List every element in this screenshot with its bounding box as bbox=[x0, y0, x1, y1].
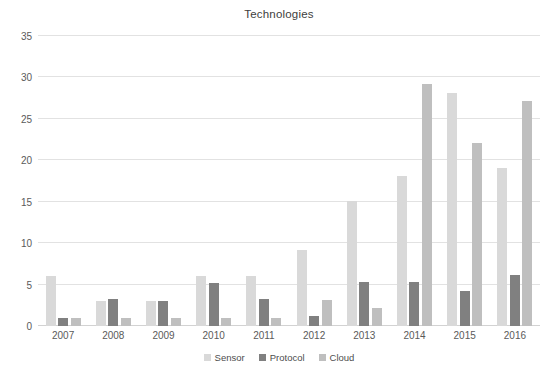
y-tick-label-10: 10 bbox=[0, 238, 32, 249]
x-tick-label-2014: 2014 bbox=[403, 330, 425, 341]
bar-protocol-2011[interactable] bbox=[259, 299, 269, 326]
bar-group-2009 bbox=[138, 36, 188, 326]
bar-protocol-2015[interactable] bbox=[460, 291, 470, 326]
bar-group-2014 bbox=[389, 36, 439, 326]
bar-cloud-2007[interactable] bbox=[71, 318, 81, 326]
y-tick-label-35: 35 bbox=[0, 31, 32, 42]
bar-sensor-2012[interactable] bbox=[297, 250, 307, 326]
bar-cloud-2009[interactable] bbox=[171, 318, 181, 326]
legend-item-cloud[interactable]: Cloud bbox=[319, 352, 355, 363]
x-tick-label-2015: 2015 bbox=[454, 330, 476, 341]
x-tick-label-2009: 2009 bbox=[152, 330, 174, 341]
bar-cloud-2011[interactable] bbox=[271, 318, 281, 326]
bar-cloud-2008[interactable] bbox=[121, 318, 131, 326]
x-tick-label-2013: 2013 bbox=[353, 330, 375, 341]
bar-group-2011 bbox=[239, 36, 289, 326]
y-tick-label-15: 15 bbox=[0, 196, 32, 207]
y-tick-label-25: 25 bbox=[0, 113, 32, 124]
bar-group-2010 bbox=[189, 36, 239, 326]
bar-group-2007 bbox=[38, 36, 88, 326]
y-tick-label-5: 5 bbox=[0, 279, 32, 290]
bar-sensor-2014[interactable] bbox=[397, 176, 407, 326]
bar-sensor-2013[interactable] bbox=[347, 201, 357, 326]
bar-sensor-2011[interactable] bbox=[246, 276, 256, 326]
legend-label-protocol: Protocol bbox=[270, 352, 305, 363]
bar-group-2012 bbox=[289, 36, 339, 326]
bar-cloud-2015[interactable] bbox=[472, 143, 482, 326]
x-tick-label-2008: 2008 bbox=[102, 330, 124, 341]
bar-sensor-2009[interactable] bbox=[146, 301, 156, 326]
chart-title: Technologies bbox=[0, 8, 558, 20]
chart-container: Technologies 05101520253035 200720082009… bbox=[0, 0, 558, 374]
bar-sensor-2008[interactable] bbox=[96, 301, 106, 326]
x-tick-label-2011: 2011 bbox=[253, 330, 275, 341]
y-tick-label-30: 30 bbox=[0, 72, 32, 83]
bar-cloud-2010[interactable] bbox=[221, 318, 231, 326]
legend-swatch-icon-sensor bbox=[204, 354, 211, 361]
bar-group-2008 bbox=[88, 36, 138, 326]
x-tick-label-2012: 2012 bbox=[303, 330, 325, 341]
legend-swatch-icon-cloud bbox=[319, 354, 326, 361]
x-tick-label-2007: 2007 bbox=[52, 330, 74, 341]
bar-group-2013 bbox=[339, 36, 389, 326]
chart-legend: SensorProtocolCloud bbox=[0, 352, 558, 363]
bar-sensor-2015[interactable] bbox=[447, 93, 457, 326]
legend-item-protocol[interactable]: Protocol bbox=[259, 352, 305, 363]
y-tick-label-0: 0 bbox=[0, 321, 32, 332]
bar-cloud-2014[interactable] bbox=[422, 84, 432, 326]
y-axis: 05101520253035 bbox=[0, 36, 32, 326]
bar-cloud-2012[interactable] bbox=[322, 300, 332, 327]
legend-label-sensor: Sensor bbox=[215, 352, 245, 363]
x-tick-label-2010: 2010 bbox=[203, 330, 225, 341]
bar-protocol-2010[interactable] bbox=[209, 283, 219, 326]
x-tick-label-2016: 2016 bbox=[504, 330, 526, 341]
bar-protocol-2009[interactable] bbox=[158, 301, 168, 326]
y-tick-label-20: 20 bbox=[0, 155, 32, 166]
x-axis: 2007200820092010201120122013201420152016 bbox=[38, 330, 540, 348]
bars-layer bbox=[38, 36, 540, 326]
bar-protocol-2012[interactable] bbox=[309, 316, 319, 326]
bar-group-2015 bbox=[440, 36, 490, 326]
legend-label-cloud: Cloud bbox=[330, 352, 355, 363]
bar-protocol-2008[interactable] bbox=[108, 299, 118, 326]
bar-group-2016 bbox=[490, 36, 540, 326]
bar-sensor-2007[interactable] bbox=[46, 276, 56, 326]
bar-cloud-2016[interactable] bbox=[522, 101, 532, 326]
legend-item-sensor[interactable]: Sensor bbox=[204, 352, 245, 363]
bar-protocol-2016[interactable] bbox=[510, 275, 520, 326]
bar-sensor-2016[interactable] bbox=[497, 168, 507, 326]
bar-protocol-2007[interactable] bbox=[58, 318, 68, 326]
bar-cloud-2013[interactable] bbox=[372, 308, 382, 326]
bar-sensor-2010[interactable] bbox=[196, 276, 206, 326]
legend-swatch-icon-protocol bbox=[259, 354, 266, 361]
bar-protocol-2014[interactable] bbox=[409, 282, 419, 326]
bar-protocol-2013[interactable] bbox=[359, 282, 369, 326]
